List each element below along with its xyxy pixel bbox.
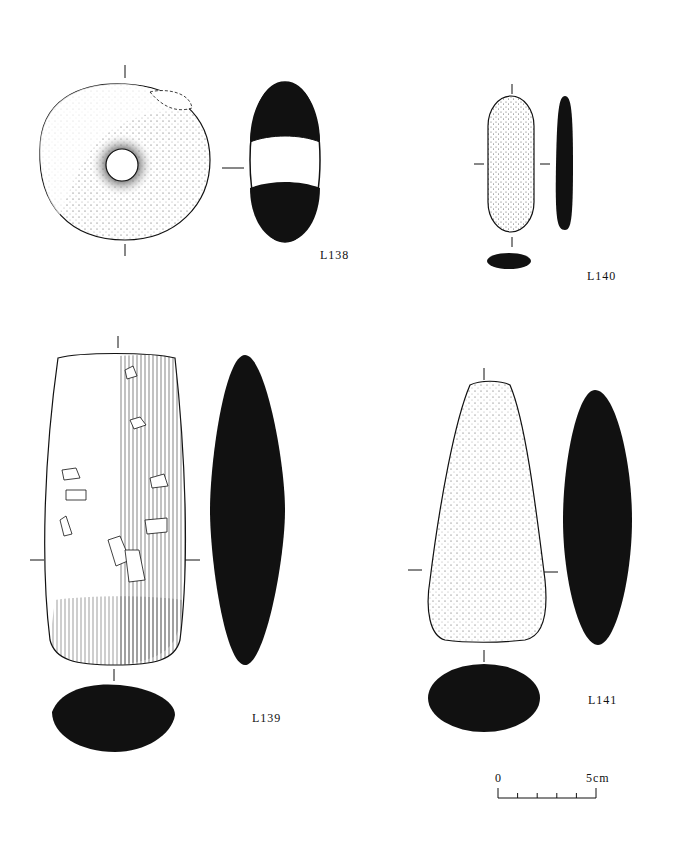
artifact-L141: L141: [408, 368, 632, 732]
L141-side-section: [563, 390, 632, 645]
L138-label: L138: [320, 248, 349, 262]
scale-start-label: 0: [495, 771, 502, 785]
L139-face-view: [45, 354, 186, 666]
L139-cross-section: [52, 684, 175, 752]
L140-cross-section: [487, 253, 531, 269]
L138-face-view: [40, 84, 210, 240]
L139-label: L139: [252, 711, 281, 725]
artifact-plate: L138 L140: [0, 0, 673, 841]
scale-bar: 0 5cm: [495, 771, 610, 798]
L140-side-section: [556, 96, 573, 230]
artifact-L140: L140: [474, 84, 616, 283]
artifact-L138: L138: [40, 65, 349, 262]
scale-bar-ticks: [498, 788, 596, 798]
L140-face-view: [488, 96, 534, 232]
L139-side-section: [210, 355, 285, 665]
L140-label: L140: [587, 269, 616, 283]
scale-end-label: 5cm: [586, 771, 610, 785]
L141-label: L141: [588, 693, 617, 707]
L138-section: [250, 82, 320, 242]
artifact-L139: L139: [30, 336, 285, 752]
L141-face-view: [428, 381, 546, 642]
L141-cross-section: [428, 664, 540, 732]
